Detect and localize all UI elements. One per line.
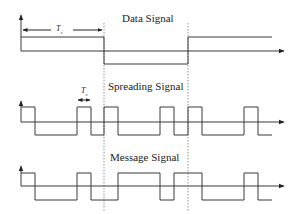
spread-spectrum-diagram: [0, 0, 296, 214]
message-signal-title: Message Signal: [110, 152, 179, 163]
spreading-waveform: [21, 107, 272, 135]
tc-subscript: c: [85, 92, 87, 97]
tc-label: Tc: [81, 87, 88, 97]
message-signal-panel: [21, 166, 284, 200]
spreading-signal-title: Spreading Signal: [108, 81, 183, 92]
ts-subscript: s: [60, 30, 62, 35]
data-signal-title: Data Signal: [122, 13, 174, 24]
ts-label: Ts: [56, 25, 62, 35]
spreading-signal-panel: [21, 100, 284, 135]
